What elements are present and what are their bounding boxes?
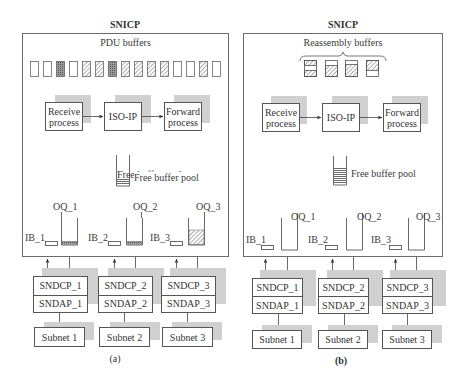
oq3-label-b: OQ_3 xyxy=(416,211,440,222)
subnet-3-b: Subnet 3 xyxy=(382,330,432,349)
sndcp-1-b: SNDCP_1 xyxy=(253,279,302,296)
sndcp-3-b: SNDCP_3 xyxy=(383,279,432,296)
oq2-label-b: OQ_2 xyxy=(357,211,381,222)
ib3-label-b: IB_3 xyxy=(371,234,391,245)
sndcp-2-b: SNDCP_2 xyxy=(319,279,368,296)
sndap-3-b: SNDAP_3 xyxy=(383,296,432,313)
free-pool-label-b: Free buffer pool xyxy=(351,168,416,179)
stack-2-b: SNDCP_2 SNDAP_2 xyxy=(318,278,369,314)
ib1-label-b: IB_1 xyxy=(246,234,266,245)
subnet-2-b: Subnet 2 xyxy=(318,330,368,349)
caption-b: (b) xyxy=(326,355,356,366)
ib2-label-b: IB_2 xyxy=(308,234,328,245)
stack-3-b: SNDCP_3 SNDAP_3 xyxy=(382,278,433,314)
oq1-label-b: OQ_1 xyxy=(291,211,315,222)
sndap-2-b: SNDAP_2 xyxy=(319,296,368,313)
stack-1-b: SNDCP_1 SNDAP_1 xyxy=(252,278,303,314)
sndap-1-b: SNDAP_1 xyxy=(253,296,302,313)
subnet-1-b: Subnet 1 xyxy=(252,330,302,349)
